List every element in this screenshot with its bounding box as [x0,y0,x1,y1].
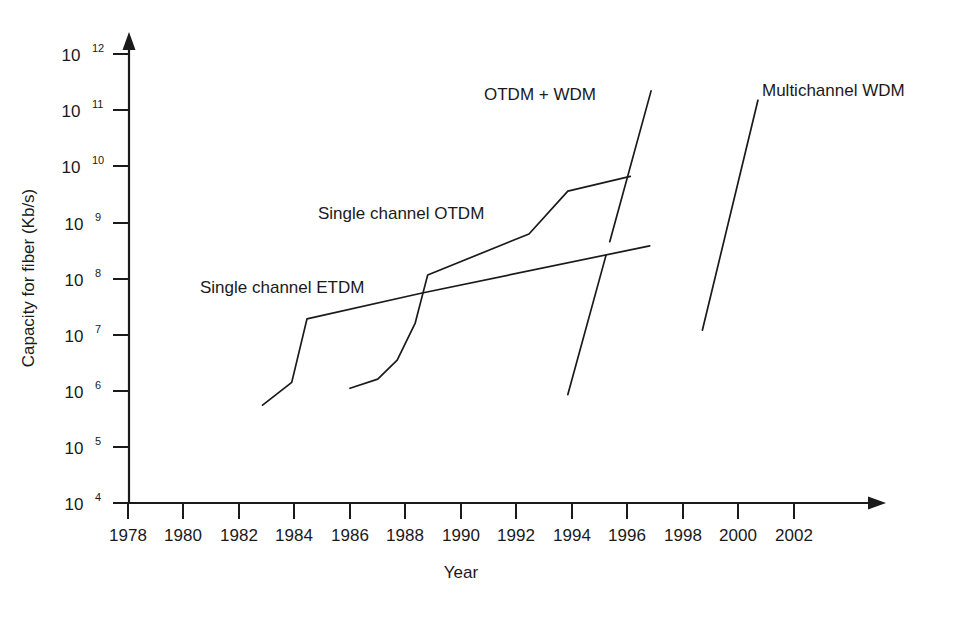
y-tick-label-base: 10 [65,327,84,346]
y-tick-label-exponent: 7 [95,323,101,335]
y-tick-label-exponent: 12 [92,42,104,54]
y-axis-arrowhead [123,32,136,50]
line-chart-plot: 10 12 10 11 10 10 10 9 10 8 10 7 10 6 10… [0,0,964,621]
y-axis-ticks [113,54,129,503]
x-axis-title: Year [444,563,479,582]
x-tick-label: 1986 [331,526,369,545]
x-tick-label: 2002 [775,526,813,545]
x-tick-label: 1978 [109,526,147,545]
series-annotation-label: Single channel ETDM [200,278,364,297]
y-tick-label-base: 10 [65,383,84,402]
series-line-2 [610,91,651,242]
y-tick-label-exponent: 5 [95,435,101,447]
y-tick-label-exponent: 4 [95,491,101,503]
y-tick-label-base: 10 [65,495,84,514]
x-tick-labels: 1978 1980 1982 1984 1986 1988 1990 1992 … [109,526,813,545]
x-tick-label: 1982 [220,526,258,545]
y-tick-label-exponent: 8 [95,267,101,279]
y-tick-label-base: 10 [62,46,81,65]
x-tick-label: 1980 [164,526,202,545]
series-line-0 [263,246,650,405]
chart-figure: 10 12 10 11 10 10 10 9 10 8 10 7 10 6 10… [0,0,964,621]
x-axis-ticks [128,503,794,519]
x-tick-label: 1996 [608,526,646,545]
series-line-3 [702,100,758,330]
y-tick-label-base: 10 [62,158,81,177]
y-axis-title: Capacity for fiber (Kb/s) [19,189,38,368]
series-annotation-label: OTDM + WDM [484,85,596,104]
x-tick-label: 1994 [553,526,591,545]
x-axis-arrowhead [868,497,886,510]
x-tick-label: 2000 [719,526,757,545]
y-tick-label-base: 10 [62,102,81,121]
y-tick-label-exponent: 11 [92,98,103,110]
y-tick-label-base: 10 [65,215,84,234]
y-tick-label-exponent: 6 [95,379,101,391]
y-tick-label-exponent: 9 [95,211,101,223]
y-tick-labels: 10 12 10 11 10 10 10 9 10 8 10 7 10 6 10… [62,42,105,514]
x-tick-label: 1990 [442,526,480,545]
x-tick-label: 1992 [497,526,535,545]
series-annotation-label: Multichannel WDM [762,81,905,100]
y-tick-label-base: 10 [65,439,84,458]
series-annotation-label: Single channel OTDM [318,204,484,223]
x-tick-label: 1998 [664,526,702,545]
data-series-group [263,91,758,405]
y-tick-label-base: 10 [65,271,84,290]
series-line-2 [568,255,606,394]
y-tick-label-exponent: 10 [92,154,104,166]
x-tick-label: 1988 [386,526,424,545]
x-tick-label: 1984 [275,526,313,545]
series-label-group: Single channel ETDMSingle channel OTDMOT… [200,81,905,297]
